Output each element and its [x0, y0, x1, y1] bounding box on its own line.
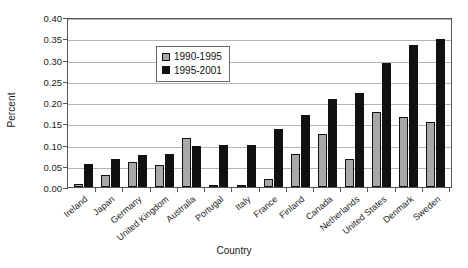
bar — [318, 134, 327, 187]
bar — [274, 129, 283, 187]
bar-group — [341, 19, 368, 187]
bar-group — [287, 19, 314, 187]
bar-group — [314, 19, 341, 187]
bar-group — [205, 19, 232, 187]
bar — [426, 122, 435, 187]
x-axis-title: Country — [0, 245, 468, 256]
bar — [409, 45, 418, 187]
x-axis-label-cell: Portugal — [205, 192, 232, 244]
bar — [264, 179, 273, 188]
bar — [355, 93, 364, 187]
black-square-icon — [162, 66, 170, 74]
y-axis-tick-label: 0.20 — [32, 98, 62, 109]
x-axis-label-cell: Sweden — [423, 192, 450, 244]
bar — [209, 185, 218, 187]
y-axis-tick-mark — [63, 124, 68, 125]
legend-label: 1990-1995 — [174, 50, 222, 64]
x-axis-tick-label: Ireland — [62, 194, 90, 219]
bar-group — [97, 19, 124, 187]
y-axis-tick-label: 0.05 — [32, 161, 62, 172]
legend-label: 1995-2001 — [174, 64, 222, 78]
bar-group — [260, 19, 287, 187]
plot-area: 1990-1995 1995-2001 — [67, 18, 452, 188]
y-axis-tick-label: 0.40 — [32, 13, 62, 24]
y-axis-tick-labels: 0.400.350.300.250.200.150.100.050.00 — [30, 18, 62, 188]
bar — [101, 175, 110, 187]
y-axis-tick-mark — [63, 167, 68, 168]
bar-group — [70, 19, 97, 187]
bar-group — [368, 19, 395, 187]
bar-group — [395, 19, 422, 187]
bar — [247, 145, 256, 188]
legend: 1990-1995 1995-2001 — [156, 46, 230, 82]
x-axis-label-cell: Ireland — [69, 192, 96, 244]
legend-entry: 1995-2001 — [162, 64, 222, 78]
y-axis-tick-label: 0.25 — [32, 76, 62, 87]
bar-chart: Percent 0.400.350.300.250.200.150.100.05… — [0, 0, 468, 268]
bar — [182, 138, 191, 187]
bar — [345, 159, 354, 187]
y-axis-tick-mark — [63, 82, 68, 83]
bar — [84, 164, 93, 187]
legend-entry: 1990-1995 — [162, 50, 222, 64]
bar — [111, 159, 120, 187]
y-axis-tick-label: 0.35 — [32, 34, 62, 45]
bar — [237, 185, 246, 187]
bar-group — [151, 19, 178, 187]
bar-group — [232, 19, 259, 187]
bar — [155, 165, 164, 187]
bar — [128, 162, 137, 187]
bar — [301, 115, 310, 187]
bar — [219, 145, 228, 187]
bar — [399, 117, 408, 187]
bar — [165, 154, 174, 187]
x-axis-tick-label: Italy — [233, 194, 252, 212]
y-axis-tick-mark — [63, 188, 68, 189]
bar — [372, 112, 381, 187]
y-axis-tick-label: 0.30 — [32, 55, 62, 66]
bar — [382, 63, 391, 187]
y-axis-tick-label: 0.10 — [32, 140, 62, 151]
y-axis-tick-mark — [63, 39, 68, 40]
x-axis-label-cell: Italy — [232, 192, 259, 244]
bar — [436, 39, 445, 187]
y-axis-tick-mark — [63, 103, 68, 104]
y-axis-tick-mark — [63, 61, 68, 62]
bar — [138, 155, 147, 187]
x-axis-tick-labels: IrelandJapanGermanyUnited KingdomAustral… — [67, 192, 452, 244]
y-axis-tick-label: 0.15 — [32, 119, 62, 130]
y-axis-tick-mark — [63, 146, 68, 147]
bar-group — [178, 19, 205, 187]
bar-group — [124, 19, 151, 187]
bar — [192, 146, 201, 187]
gray-square-icon — [162, 53, 170, 61]
y-axis-title: Percent — [6, 70, 17, 150]
bar — [291, 154, 300, 187]
bars-layer — [68, 19, 451, 187]
y-axis-tick-mark — [63, 18, 68, 19]
bar — [74, 184, 83, 187]
y-axis-tick-label: 0.00 — [32, 183, 62, 194]
bar — [328, 99, 337, 187]
bar-group — [422, 19, 449, 187]
